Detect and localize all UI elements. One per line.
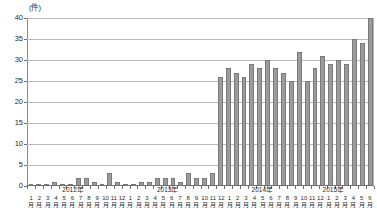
bar <box>352 39 357 186</box>
bar-cell <box>264 18 272 186</box>
x-axis-month-label: 5月 <box>60 195 68 209</box>
y-axis-tick-label: 5 <box>3 161 23 169</box>
bar-cell <box>35 18 43 186</box>
x-axis-month-label: 11月 <box>308 195 316 209</box>
x-axis-month-label: 8月 <box>85 195 93 209</box>
bar-cell <box>256 18 264 186</box>
bar-cell <box>82 18 90 186</box>
x-axis-tickmark <box>122 186 123 189</box>
x-axis-month-label: 10月 <box>300 195 308 209</box>
y-axis-tick-label: 20 <box>3 98 23 106</box>
x-axis-tickmark <box>130 186 131 189</box>
x-axis-month-label: 10月 <box>101 195 109 209</box>
x-axis-month-label: 9月 <box>93 195 101 209</box>
bar-cell <box>327 18 335 186</box>
bar <box>328 64 333 186</box>
bar-cell <box>122 18 130 186</box>
bar <box>368 18 373 186</box>
bar-cell <box>43 18 51 186</box>
bar-cell <box>193 18 201 186</box>
x-axis-month-label: 5月 <box>358 195 366 209</box>
bar <box>249 64 254 186</box>
x-axis-tickmark <box>90 186 91 189</box>
x-axis-tickmark <box>51 186 52 189</box>
x-axis-month-label: 7月 <box>77 195 85 209</box>
bar-cell <box>351 18 359 186</box>
x-axis-month-label: 5月 <box>159 195 167 209</box>
bar-cell <box>161 18 169 186</box>
x-axis-month-label: 6月 <box>68 195 76 209</box>
bar <box>320 56 325 186</box>
x-axis-month-label: 4月 <box>349 195 357 209</box>
x-axis-month-label: 6月 <box>366 195 374 209</box>
x-axis-tickmark <box>374 186 375 189</box>
y-axis-tick-label: 30 <box>3 56 23 64</box>
x-axis-tickmark <box>27 186 28 189</box>
x-axis-month-label: 1月 <box>225 195 233 209</box>
bar-series <box>27 18 374 186</box>
x-axis-tickmark <box>232 186 233 189</box>
x-axis-year-label: 2014年 <box>252 186 273 194</box>
bar-cell <box>295 18 303 186</box>
x-axis-month-label: 2月 <box>134 195 142 209</box>
bar <box>257 68 262 186</box>
x-axis-tickmark <box>216 186 217 189</box>
x-axis-month-label: 12月 <box>316 195 324 209</box>
bar <box>344 64 349 186</box>
bar-cell <box>27 18 35 186</box>
x-axis-month-label: 3月 <box>143 195 151 209</box>
x-axis-tickmark <box>137 186 138 189</box>
x-axis-tickmark <box>114 186 115 189</box>
bar-cell <box>51 18 59 186</box>
bar-cell <box>366 18 374 186</box>
x-axis-tickmark <box>43 186 44 189</box>
x-axis-month-label: 2月 <box>333 195 341 209</box>
x-axis-tickmark <box>224 186 225 189</box>
y-axis-tick-label: 35 <box>3 35 23 43</box>
x-axis-month-label: 7月 <box>275 195 283 209</box>
x-axis-tickmark <box>279 186 280 189</box>
x-axis-month-label: 2月 <box>35 195 43 209</box>
bar-cell <box>208 18 216 186</box>
bar <box>305 81 310 186</box>
x-axis-tickmark <box>303 186 304 189</box>
bar <box>281 73 286 186</box>
bar <box>313 68 318 186</box>
bar <box>360 43 365 186</box>
x-axis-month-label: 4月 <box>250 195 258 209</box>
bar <box>242 77 247 186</box>
x-axis-tickmark <box>358 186 359 189</box>
bar-cell <box>59 18 67 186</box>
x-axis: 1月2月3月4月5月6月7月8月9月10月11月12月1月2月3月4月5月6月7… <box>27 186 374 215</box>
x-axis-month-label: 3月 <box>44 195 52 209</box>
x-axis-month-label: 3月 <box>242 195 250 209</box>
bar-cell <box>137 18 145 186</box>
x-axis-tickmark <box>350 186 351 189</box>
bar-cell <box>272 18 280 186</box>
x-axis-month-label: 1月 <box>325 195 333 209</box>
x-axis-month-label: 1月 <box>27 195 35 209</box>
bar <box>289 81 294 186</box>
bar-cell <box>114 18 122 186</box>
x-axis-month-label: 1月 <box>126 195 134 209</box>
bar-cell <box>177 18 185 186</box>
x-axis-month-label: 2月 <box>234 195 242 209</box>
bar-cell <box>98 18 106 186</box>
bar-cell <box>248 18 256 186</box>
bar <box>218 77 223 186</box>
bar <box>226 68 231 186</box>
bar-cell <box>287 18 295 186</box>
bar <box>234 73 239 186</box>
bar-cell <box>169 18 177 186</box>
x-axis-tickmark <box>240 186 241 189</box>
y-axis-tick-label: 40 <box>3 14 23 22</box>
x-axis-year-label: 2015年 <box>323 186 344 194</box>
bar-cell <box>280 18 288 186</box>
x-axis-month-label: 8月 <box>184 195 192 209</box>
x-axis-month-label: 5月 <box>258 195 266 209</box>
x-axis-tickmark <box>208 186 209 189</box>
bar-cell <box>74 18 82 186</box>
x-axis-tickmark <box>35 186 36 189</box>
bar-cell <box>153 18 161 186</box>
bar <box>336 60 341 186</box>
